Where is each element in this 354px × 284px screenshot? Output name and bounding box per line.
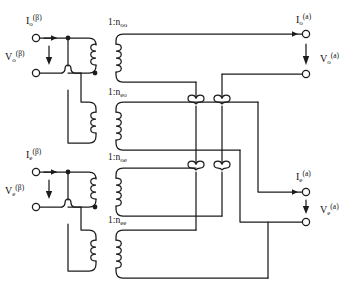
ratio-label-oo: 1:noo	[108, 18, 127, 29]
transformer-oe	[68, 168, 222, 216]
output-odd-current-terminal[interactable]	[302, 30, 309, 37]
output-even-voltage-arrowhead	[303, 206, 309, 214]
label-output-odd-voltage: Vo(a)	[320, 52, 339, 66]
output-even-current-terminal[interactable]	[302, 188, 309, 195]
output-even-current-arrowhead	[292, 189, 298, 195]
output-odd-current-arrowhead	[292, 31, 298, 37]
transformer-ee	[68, 207, 268, 278]
label-input-odd-current: Io(β)	[26, 14, 42, 28]
output-port-odd	[292, 30, 310, 77]
output-port-even	[292, 188, 310, 225]
ratio-label-eo: 1:neo	[108, 88, 127, 99]
input-even-bottom-wire-hop	[62, 199, 81, 207]
ratio-label-oe: 1:noe	[108, 153, 127, 164]
transformer-ee-secondary-bottom-lead	[116, 268, 268, 278]
input-odd-top-junction-dot	[66, 36, 71, 41]
input-even-voltage-terminal[interactable]	[32, 203, 39, 210]
input-port-even	[32, 168, 97, 210]
output-odd-voltage-arrowhead	[303, 56, 309, 65]
input-odd-voltage-terminal[interactable]	[32, 69, 39, 76]
transformer-oe-primary-coil	[91, 178, 96, 199]
input-odd-current-arrowhead	[51, 35, 57, 41]
input-odd-current-terminal[interactable]	[32, 34, 39, 41]
input-port-odd	[32, 34, 97, 76]
transformer-oo-secondary-coil	[116, 44, 121, 72]
transformer-oe-secondary-bottom-lead	[116, 206, 222, 216]
transformer-eo-secondary-top-lead	[116, 102, 258, 112]
label-output-even-current: Ie(a)	[296, 170, 311, 184]
input-even-voltage-arrowhead	[46, 191, 52, 199]
interconnect-bus	[188, 74, 302, 278]
label-output-even-voltage: Ve(a)	[320, 203, 339, 217]
transformer-oo-primary-coil	[91, 44, 96, 65]
transformer-eo-secondary-coil	[116, 112, 121, 140]
transformer-eo-primary-bottom-lead	[68, 90, 96, 143]
label-input-even-current: Ie(β)	[26, 148, 41, 162]
input-odd-voltage-arrowhead	[46, 57, 52, 65]
transformer-ee-secondary-coil	[116, 240, 121, 268]
input-even-current-terminal[interactable]	[32, 168, 39, 175]
input-even-current-arrowhead	[51, 169, 57, 175]
transformer-oe-secondary-coil	[116, 178, 121, 206]
transformer-oo	[68, 34, 302, 82]
input-even-top-junction-dot	[66, 170, 71, 175]
transformer-ee-primary-top-lead	[81, 207, 96, 240]
input-odd-bottom-junction-dot	[93, 71, 98, 76]
ratio-label-ee: 1:nee	[108, 216, 126, 227]
transformer-eo-primary-coil	[91, 112, 96, 133]
transformer-eo-primary-top-lead	[81, 73, 96, 112]
output-odd-voltage-terminal[interactable]	[302, 70, 309, 77]
output-even-voltage-terminal[interactable]	[302, 218, 309, 225]
label-input-even-voltage: Ve(β)	[5, 184, 24, 198]
transformer-eo-lower-return-wire	[240, 150, 268, 278]
transformer-oo-secondary-top-lead	[116, 34, 302, 44]
transformer-oe-secondary-top-lead	[116, 168, 196, 178]
circuit-schematic-svg	[0, 0, 354, 284]
transformer-ee-secondary-top-lead	[116, 230, 196, 240]
circuit-diagram: Io(β) Vo(β) Ie(β) Ve(β) Io(a) Vo(a) Ie(a…	[0, 0, 354, 284]
transformer-oo-secondary-bottom-lead	[116, 72, 196, 82]
label-input-odd-voltage: Vo(β)	[5, 50, 25, 64]
input-even-bottom-junction-dot	[93, 205, 98, 210]
transformer-oe-primary-top-lead	[68, 172, 96, 179]
transformer-oo-primary-top-lead	[68, 38, 96, 45]
transformer-eo	[68, 73, 258, 150]
label-output-odd-current: Io(a)	[296, 13, 311, 27]
input-odd-bottom-wire-hop	[62, 65, 81, 73]
transformer-ee-primary-coil	[91, 240, 96, 261]
